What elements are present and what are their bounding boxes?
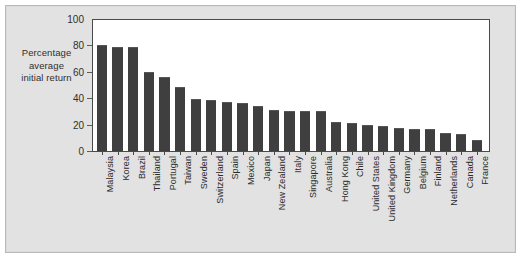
x-tick-label: Sweden: [199, 156, 209, 189]
x-tick-mark: [399, 152, 400, 155]
x-tick-label: Malaysia: [105, 156, 115, 192]
bar: [144, 72, 154, 151]
bar: [378, 126, 388, 151]
x-tick-mark: [305, 152, 306, 155]
x-tick-mark: [477, 152, 478, 155]
x-tick-label: Germany: [402, 156, 412, 194]
x-tick-mark: [336, 152, 337, 155]
x-tick-mark: [289, 152, 290, 155]
x-tick-label: Spain: [230, 156, 240, 180]
x-tick-label: United States: [371, 156, 381, 211]
x-tick-mark: [352, 152, 353, 155]
y-tick-label: 0: [78, 146, 84, 157]
x-tick-label: Belgium: [418, 156, 428, 189]
x-tick-mark: [274, 152, 275, 155]
y-tick-label: 20: [73, 119, 84, 130]
bar: [300, 111, 310, 151]
x-tick-label: Korea: [121, 156, 131, 181]
y-tick-label: 60: [73, 66, 84, 77]
x-tick-mark: [118, 152, 119, 155]
x-tick-mark: [149, 152, 150, 155]
bar: [191, 99, 201, 151]
x-tick-mark: [133, 152, 134, 155]
x-tick-label: Finland: [433, 156, 443, 186]
x-tick-label: Japan: [262, 156, 272, 181]
bar-series: [94, 19, 490, 151]
bar: [394, 128, 404, 151]
y-tick-label: 80: [73, 40, 84, 51]
bar: [456, 134, 466, 151]
x-tick-label: Brazil: [137, 156, 147, 179]
bar: [253, 106, 263, 151]
x-tick-mark: [211, 152, 212, 155]
bar: [112, 47, 122, 151]
bar: [269, 110, 279, 151]
x-tick-label: Singapore: [308, 156, 318, 198]
x-tick-label: Netherlands: [449, 156, 459, 206]
x-tick-label: Canada: [465, 156, 475, 188]
x-tick-mark: [227, 152, 228, 155]
x-tick-mark: [461, 152, 462, 155]
chart-figure: Percentage average initial return 020406…: [0, 0, 521, 258]
x-tick-mark: [430, 152, 431, 155]
bar: [206, 100, 216, 151]
bar: [175, 87, 185, 151]
x-tick-label: France: [480, 156, 490, 185]
bar: [237, 103, 247, 151]
bar: [316, 111, 326, 151]
bar: [284, 111, 294, 151]
bar: [362, 125, 372, 151]
x-tick-label: Australia: [324, 156, 334, 192]
x-tick-mark: [368, 152, 369, 155]
x-tick-label: Switzerland: [215, 156, 225, 204]
x-tick-mark: [258, 152, 259, 155]
x-tick-label: Portugal: [168, 156, 178, 190]
x-tick-label: United Kingdom: [387, 156, 397, 221]
x-tick-label: New Zealand: [277, 156, 287, 210]
x-tick-mark: [243, 152, 244, 155]
x-tick-mark: [414, 152, 415, 155]
y-axis-ticks: 020406080100: [54, 0, 92, 258]
x-tick-mark: [164, 152, 165, 155]
bar: [409, 129, 419, 151]
x-tick-mark: [446, 152, 447, 155]
x-tick-mark: [321, 152, 322, 155]
bar: [222, 102, 232, 151]
bar: [425, 129, 435, 151]
x-tick-label: Mexico: [246, 156, 256, 185]
bar: [128, 47, 138, 151]
x-tick-label: Hong Kong: [340, 156, 350, 202]
y-tick-label: 100: [67, 14, 84, 25]
x-tick-mark: [180, 152, 181, 155]
bar: [347, 123, 357, 151]
x-tick-label: Thailand: [152, 156, 162, 191]
x-tick-mark: [102, 152, 103, 155]
bar: [97, 45, 107, 151]
bar: [331, 122, 341, 151]
bar: [159, 77, 169, 151]
x-tick-label: Taiwan: [183, 156, 193, 185]
bar: [472, 140, 482, 151]
x-tick-mark: [383, 152, 384, 155]
bar: [440, 133, 450, 151]
x-tick-label: Chile: [355, 156, 365, 177]
x-tick-mark: [196, 152, 197, 155]
x-axis-labels: MalaysiaKoreaBrazilThailandPortugalTaiwa…: [94, 156, 490, 226]
x-tick-label: Italy: [293, 156, 303, 173]
y-tick-label: 40: [73, 93, 84, 104]
